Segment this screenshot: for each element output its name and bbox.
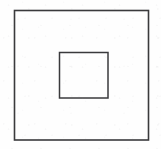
outer-square [15,11,149,141]
figure-canvas [0,0,161,149]
inner-square [60,53,109,99]
nested-squares-drawing [0,0,161,149]
